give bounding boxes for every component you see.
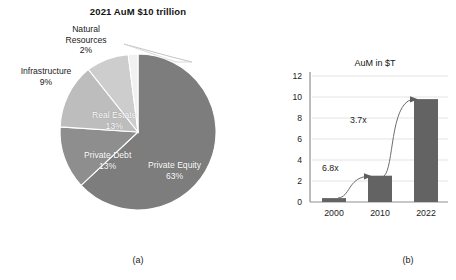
bar-ytick-6: 6 — [284, 134, 302, 144]
annotation-growth-1: 6.8x — [322, 163, 339, 173]
pie-label-infrastructure: Infrastructure 9% — [2, 66, 90, 87]
pie-label-natural-resources: Natural Resources 2% — [46, 24, 126, 56]
pie-label-private-debt-pct: 13% — [84, 161, 131, 172]
pie-label-private-equity: Private Equity 63% — [148, 160, 201, 181]
growth-arrow-1 — [338, 177, 366, 199]
pie-label-real-estate-pct: 13% — [92, 121, 136, 132]
pie-chart-title: 2021 AuM $10 trillion — [0, 6, 276, 17]
panel-a-pie-chart: 2021 AuM $10 trillion — [0, 0, 276, 280]
pie-label-real-estate: Real Estate 13% — [92, 110, 136, 131]
bar-chart-graphic — [276, 0, 456, 280]
bar-ytick-8: 8 — [284, 113, 302, 123]
bar-ytick-12: 12 — [284, 71, 302, 81]
bar-2000 — [322, 198, 346, 202]
pie-label-infrastructure-name: Infrastructure — [2, 66, 90, 77]
pie-label-natural-resources-name-2: Resources — [46, 35, 126, 46]
bar-xtick-2010: 2010 — [360, 208, 400, 218]
bar-ytick-10: 10 — [284, 92, 302, 102]
pie-label-real-estate-name: Real Estate — [92, 110, 136, 121]
pie-label-private-equity-pct: 63% — [148, 171, 201, 182]
bar-xtick-2022: 2022 — [406, 208, 446, 218]
bar-ytick-2: 2 — [284, 176, 302, 186]
annotation-growth-2: 3.7x — [350, 115, 367, 125]
bar-ytick-0: 0 — [284, 197, 302, 207]
panel-b-bar-chart: AuM in $T — [276, 0, 456, 280]
bar-2010 — [368, 176, 392, 202]
caption-panel-a: (a) — [118, 255, 158, 265]
pie-label-private-debt-name: Private Debt — [84, 150, 131, 161]
bar-xtick-2000: 2000 — [314, 208, 354, 218]
pie-label-natural-resources-name-1: Natural — [46, 24, 126, 35]
pie-label-private-equity-name: Private Equity — [148, 160, 201, 171]
figure-container: 2021 AuM $10 trillion — [0, 0, 456, 280]
pie-label-infrastructure-pct: 9% — [2, 77, 90, 88]
caption-panel-b: (b) — [388, 255, 428, 265]
bar-ytick-4: 4 — [284, 155, 302, 165]
bar-2022 — [414, 99, 438, 202]
growth-arrow-2 — [384, 100, 412, 177]
pie-label-natural-resources-pct: 2% — [46, 45, 126, 56]
pie-label-private-debt: Private Debt 13% — [84, 150, 131, 171]
